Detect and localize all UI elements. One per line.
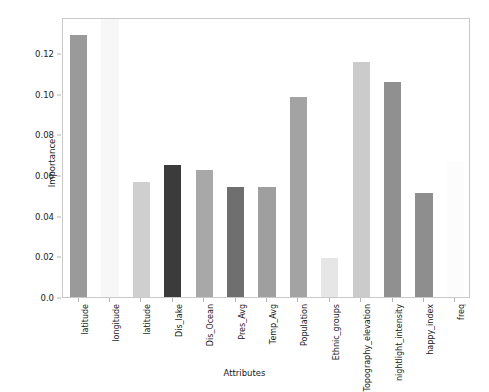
- x-tick-label: Pres_Avg: [238, 304, 247, 340]
- x-tick-label: Ethnic_groups: [332, 304, 341, 360]
- bar: [133, 182, 150, 297]
- x-tick-label: longitude: [112, 304, 121, 342]
- x-tick-mark: [392, 298, 393, 302]
- bar: [258, 187, 275, 297]
- x-tick-mark: [109, 298, 110, 302]
- x-tick-label: nightlight_intensity: [395, 304, 404, 381]
- x-tick-label: happy_index: [426, 304, 435, 355]
- x-tick-label: freq: [457, 304, 466, 320]
- y-tick-mark: [57, 135, 61, 136]
- x-tick-mark: [140, 298, 141, 302]
- bar: [321, 258, 338, 297]
- y-tick-mark: [57, 216, 61, 217]
- y-tick-mark: [57, 53, 61, 54]
- y-tick-label: 0.06: [8, 171, 54, 181]
- y-tick-label: 0.02: [8, 252, 54, 262]
- x-tick-label: Dis_Ocean: [206, 304, 215, 346]
- y-tick-mark: [57, 94, 61, 95]
- x-tick-label: Temp_Avg: [269, 304, 278, 344]
- bar: [164, 165, 181, 297]
- x-tick-mark: [235, 298, 236, 302]
- plot-area: [62, 18, 470, 298]
- y-tick-label: 0.12: [8, 49, 54, 59]
- x-tick-label: latitude: [143, 304, 152, 335]
- y-tick-label: 0.0: [8, 293, 54, 303]
- bar: [196, 170, 213, 297]
- bar: [415, 193, 432, 297]
- bar: [101, 19, 118, 297]
- x-tick-mark: [423, 298, 424, 302]
- bar: [227, 187, 244, 297]
- x-tick-mark: [266, 298, 267, 302]
- bar: [384, 82, 401, 297]
- bar: [290, 97, 307, 297]
- y-tick-mark: [57, 257, 61, 258]
- x-tick-mark: [172, 298, 173, 302]
- y-tick-mark: [57, 175, 61, 176]
- x-axis-label: Attributes: [0, 368, 489, 378]
- y-tick-mark: [57, 298, 61, 299]
- x-tick-label: Dis_lake: [175, 304, 184, 337]
- x-tick-mark: [360, 298, 361, 302]
- y-tick-label: 0.04: [8, 212, 54, 222]
- x-tick-mark: [329, 298, 330, 302]
- bars-layer: [63, 19, 469, 297]
- x-tick-label: Population: [300, 304, 309, 346]
- x-tick-mark: [297, 298, 298, 302]
- bar: [447, 162, 464, 297]
- y-tick-label: 0.08: [8, 130, 54, 140]
- x-tick-mark: [78, 298, 79, 302]
- x-tick-label: Topography_elevation: [363, 304, 372, 392]
- y-axis-label: Importance: [47, 103, 57, 223]
- x-tick-label: latitude: [81, 304, 90, 335]
- x-tick-mark: [454, 298, 455, 302]
- bar: [353, 62, 370, 297]
- x-tick-mark: [203, 298, 204, 302]
- y-tick-label: 0.10: [8, 90, 54, 100]
- bar: [70, 35, 87, 297]
